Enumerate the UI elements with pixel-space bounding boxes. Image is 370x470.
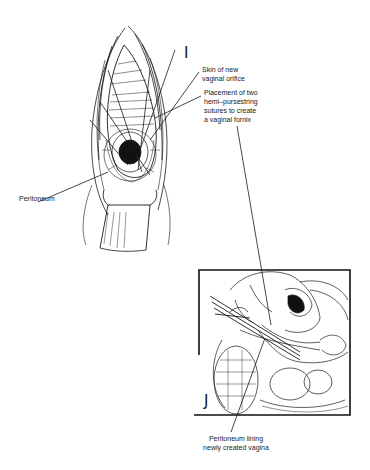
label-hemi-pursestring-sutures: Placement of two hemi–pursestring suture… (204, 88, 258, 124)
label-line: vaginal orifice (202, 74, 245, 83)
label-line: sutures to create (204, 106, 258, 115)
panel-i-drawing (83, 26, 175, 251)
label-line: Skin of new (202, 65, 245, 74)
panel-j-leader (231, 338, 265, 432)
label-peritoneum-lining: Peritoneum lining newly created vagina (196, 434, 276, 452)
label-line: Peritoneum lining (196, 434, 276, 443)
panel-i-letter: I (184, 44, 188, 62)
label-peritoneum: Peritoneum (19, 194, 55, 203)
label-skin-of-new-vaginal-orifice: Skin of new vaginal orifice (202, 65, 245, 83)
illustration-canvas (0, 0, 370, 470)
label-line: hemi–pursestring (204, 97, 258, 106)
panel-j-frame (194, 270, 350, 415)
panel-j-letter: J (204, 392, 208, 410)
label-line: Placement of two (204, 88, 258, 97)
label-line: a vaginal fornix (204, 115, 258, 124)
label-line: newly created vagina (196, 443, 276, 452)
panel-j-drawing (210, 272, 348, 414)
